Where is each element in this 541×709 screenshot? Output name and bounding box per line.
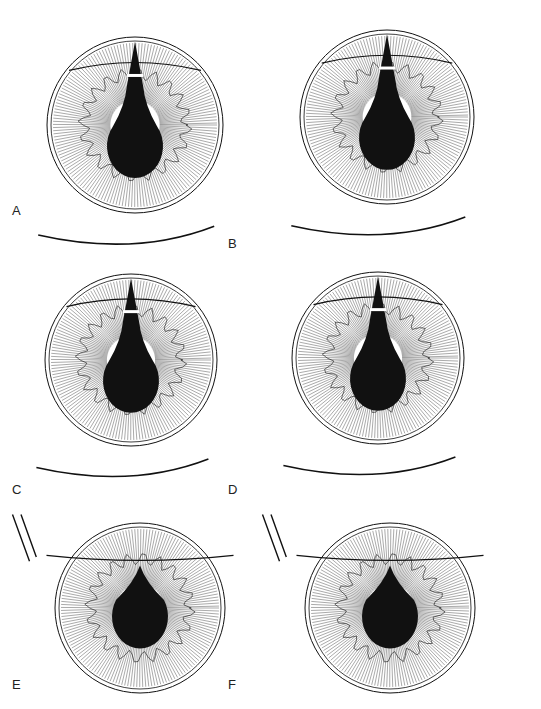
panel-label-c: C xyxy=(12,482,21,497)
panel-label-b: B xyxy=(228,236,237,251)
curved-needle xyxy=(36,459,208,477)
curved-needle xyxy=(291,217,465,235)
panel-f xyxy=(263,515,484,694)
panel-label-e: E xyxy=(12,677,21,692)
panel-c xyxy=(36,274,217,476)
forceps xyxy=(263,515,287,562)
panel-label-a: A xyxy=(12,203,21,218)
forceps xyxy=(13,515,37,562)
panel-a xyxy=(38,37,223,244)
panel-b xyxy=(291,30,474,235)
panel-label-f: F xyxy=(228,677,236,692)
curved-needle xyxy=(38,226,214,244)
iris-suture-figure xyxy=(0,0,541,709)
panel-e xyxy=(13,515,234,694)
panel-label-d: D xyxy=(228,482,237,497)
panel-d xyxy=(283,272,464,474)
curved-needle xyxy=(283,457,455,475)
